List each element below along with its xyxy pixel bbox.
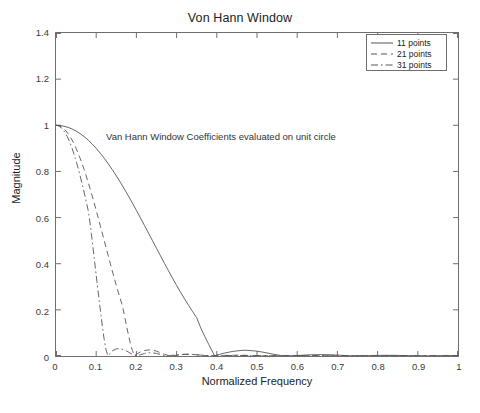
x-tick-label: 0.3 (170, 361, 183, 372)
legend-item-label: 21 points (397, 49, 432, 59)
axis-ticks (56, 33, 458, 356)
y-axis-label: Magnitude (10, 118, 22, 238)
series-line-3 (56, 125, 458, 356)
series-line-1 (56, 125, 458, 356)
x-axis-tick-labels: 00.10.20.30.40.50.60.70.80.91 (55, 361, 459, 375)
x-tick-label: 0.1 (89, 361, 102, 372)
y-tick-label: 1 (44, 119, 49, 130)
plot-area (55, 32, 459, 357)
x-tick-label: 0.5 (250, 361, 263, 372)
y-tick-label: 0.4 (36, 259, 49, 270)
page-title: Von Hann Window (0, 11, 480, 25)
x-tick-label: 1 (456, 361, 461, 372)
y-tick-label: 0.2 (36, 305, 49, 316)
legend-line-swatch (370, 60, 394, 70)
legend-item[interactable]: 21 points (370, 48, 446, 59)
x-tick-label: 0.8 (372, 361, 385, 372)
legend-item-label: 31 points (397, 60, 432, 70)
legend-line-swatch (370, 49, 394, 59)
chart-legend[interactable]: 11 points21 points31 points (366, 34, 447, 71)
y-tick-label: 0.6 (36, 212, 49, 223)
plot-svg (56, 33, 458, 356)
x-tick-label: 0.2 (129, 361, 142, 372)
legend-line-swatch (370, 38, 394, 48)
x-axis-label: Normalized Frequency (55, 375, 459, 387)
y-tick-label: 1.4 (36, 27, 49, 38)
x-tick-label: 0.4 (210, 361, 223, 372)
y-axis-tick-labels: 00.20.40.60.811.21.4 (0, 32, 49, 357)
legend-item-label: 11 points (397, 38, 431, 48)
x-tick-label: 0.6 (291, 361, 304, 372)
y-tick-label: 0.8 (36, 166, 49, 177)
figure-canvas: Von Hann Window 00.20.40.60.811.21.4 00.… (0, 0, 480, 413)
x-tick-label: 0.9 (412, 361, 425, 372)
y-tick-label: 1.2 (36, 73, 49, 84)
legend-item[interactable]: 31 points (370, 59, 446, 70)
y-tick-label: 0 (44, 352, 49, 363)
x-tick-label: 0 (52, 361, 57, 372)
series-line-2 (56, 125, 458, 356)
legend-item[interactable]: 11 points (370, 37, 446, 48)
chart-annotation: Van Hann Window Coefficients evaluated o… (106, 131, 336, 142)
x-tick-label: 0.7 (331, 361, 344, 372)
